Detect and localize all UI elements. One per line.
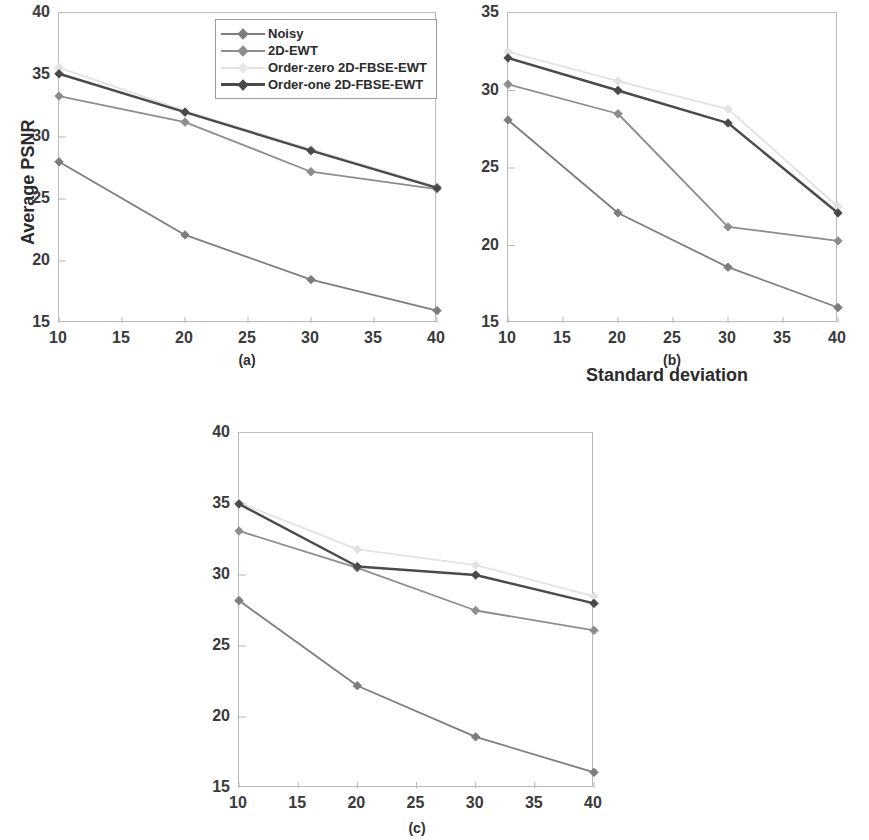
y-tick-label: 30 xyxy=(463,81,499,99)
y-tick-label: 30 xyxy=(14,127,50,145)
x-tick-label: 15 xyxy=(112,329,130,347)
x-tick-label: 10 xyxy=(229,794,247,812)
x-tick-label: 35 xyxy=(364,329,382,347)
y-tick-label: 35 xyxy=(14,65,50,83)
y-tick-label: 20 xyxy=(14,251,50,269)
x-tick-label: 35 xyxy=(773,329,791,347)
y-tick-label: 35 xyxy=(194,494,230,512)
y-tick-label: 20 xyxy=(194,707,230,725)
legend-label-noisy: Noisy xyxy=(268,27,303,40)
x-tick-label: 25 xyxy=(663,329,681,347)
panel-caption-c: (c) xyxy=(408,820,425,836)
y-tick-label: 25 xyxy=(463,158,499,176)
x-tick-label: 25 xyxy=(407,794,425,812)
y-tick-label: 25 xyxy=(14,189,50,207)
y-tick-label: 15 xyxy=(14,313,50,331)
panel-caption-b: (b) xyxy=(663,352,681,368)
legend-a: Noisy 2D-EWT Order-zero 2D-FBSE-EWT xyxy=(215,19,437,99)
legend-label-order-one: Order-one 2D-FBSE-EWT xyxy=(268,78,423,91)
y-tick-label: 15 xyxy=(194,778,230,796)
legend-label-order-zero: Order-zero 2D-FBSE-EWT xyxy=(268,61,427,74)
y-tick-label: 40 xyxy=(194,423,230,441)
legend-item: 2D-EWT xyxy=(221,42,429,59)
plot-lines-c xyxy=(239,433,594,788)
plot-lines-b xyxy=(508,13,838,323)
x-tick-label: 10 xyxy=(498,329,516,347)
x-tick-label: 30 xyxy=(466,794,484,812)
legend-marker-noisy xyxy=(221,27,265,41)
panel-c: (c) xyxy=(180,420,650,840)
legend-label-2d-ewt: 2D-EWT xyxy=(268,44,318,57)
x-tick-label: 20 xyxy=(175,329,193,347)
y-tick-label: 30 xyxy=(194,565,230,583)
x-tick-label: 20 xyxy=(347,794,365,812)
plot-area-b xyxy=(507,12,837,322)
x-tick-label: 30 xyxy=(718,329,736,347)
x-tick-label: 40 xyxy=(828,329,846,347)
panel-caption-a: (a) xyxy=(238,352,255,368)
y-tick-label: 35 xyxy=(463,3,499,21)
x-tick-label: 15 xyxy=(553,329,571,347)
x-tick-label: 10 xyxy=(49,329,67,347)
plot-area-c xyxy=(238,432,593,787)
y-tick-label: 40 xyxy=(14,3,50,21)
x-tick-label: 40 xyxy=(427,329,445,347)
legend-marker-order-one xyxy=(221,78,265,92)
y-tick-label: 25 xyxy=(194,636,230,654)
legend-item: Order-zero 2D-FBSE-EWT xyxy=(221,59,429,76)
x-tick-label: 30 xyxy=(301,329,319,347)
panel-a: Noisy 2D-EWT Order-zero 2D-FBSE-EWT xyxy=(0,0,450,400)
x-tick-label: 15 xyxy=(288,794,306,812)
x-tick-label: 35 xyxy=(525,794,543,812)
legend-marker-order-zero xyxy=(221,61,265,75)
legend-marker-2d-ewt xyxy=(221,44,265,58)
legend-item: Order-one 2D-FBSE-EWT xyxy=(221,76,429,93)
x-tick-label: 20 xyxy=(608,329,626,347)
legend-item: Noisy xyxy=(221,25,429,42)
x-tick-label: 40 xyxy=(584,794,602,812)
y-tick-label: 20 xyxy=(463,236,499,254)
x-tick-label: 25 xyxy=(238,329,256,347)
y-tick-label: 15 xyxy=(463,313,499,331)
